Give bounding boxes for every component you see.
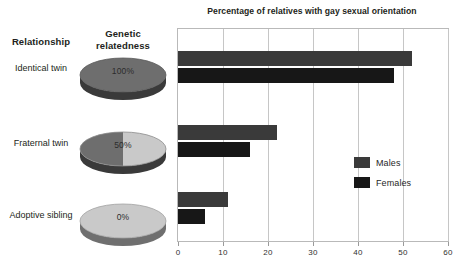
x-tick-label: 10: [218, 248, 227, 257]
pie-disc-identical-twin: 100%: [78, 50, 168, 100]
chart-title: Percentage of relatives with gay sexual …: [172, 6, 452, 16]
x-tick-label: 30: [308, 248, 317, 257]
gridline: [448, 29, 449, 241]
x-tick-mark: [313, 242, 314, 246]
row-label-fraternal-twin: Fraternal twin: [6, 138, 76, 149]
pie-value-identical-twin: 100%: [78, 66, 168, 76]
x-tick-label: 20: [263, 248, 272, 257]
x-axis: 0102030405060: [177, 244, 449, 264]
x-tick-mark: [268, 242, 269, 246]
x-tick-mark: [223, 242, 224, 246]
x-tick-label: 60: [443, 248, 452, 257]
row-label-identical-twin: Identical twin: [6, 63, 76, 74]
pie-disc-adoptive-sibling: 0%: [78, 196, 168, 246]
bar-males-fraternal-twin: [178, 125, 277, 140]
x-tick-label: 0: [176, 248, 181, 257]
pie-value-fraternal-twin: 50%: [78, 140, 168, 150]
bar-males-adoptive-sibling: [178, 192, 228, 207]
legend-swatch-males: [354, 157, 370, 168]
legend-swatch-females: [354, 177, 370, 188]
bar-females-fraternal-twin: [178, 142, 250, 157]
legend-item-males[interactable]: Males: [354, 154, 446, 171]
plot-area: [177, 28, 449, 242]
legend-label-females: Females: [376, 178, 411, 188]
bar-females-identical-twin: [178, 68, 394, 83]
bar-chart: Percentage of relatives with gay sexual …: [172, 0, 452, 276]
x-tick-mark: [178, 242, 179, 246]
x-tick-label: 50: [398, 248, 407, 257]
legend-label-males: Males: [376, 158, 401, 168]
chart-legend: MalesFemales: [354, 154, 446, 194]
relationship-panel: Relationship Genetic relatedness Identic…: [0, 0, 172, 276]
bar-females-adoptive-sibling: [178, 209, 205, 224]
x-tick-label: 40: [353, 248, 362, 257]
pie-disc-fraternal-twin: 50%: [78, 124, 168, 174]
pie-value-adoptive-sibling: 0%: [78, 212, 168, 222]
bar-males-identical-twin: [178, 51, 412, 66]
column-header-genetic-relatedness: Genetic relatedness: [78, 28, 168, 51]
legend-item-females[interactable]: Females: [354, 174, 446, 191]
column-header-relationship: Relationship: [8, 36, 74, 48]
x-tick-mark: [358, 242, 359, 246]
row-label-adoptive-sibling: Adoptive sibling: [6, 210, 76, 221]
x-tick-mark: [448, 242, 449, 246]
x-tick-mark: [403, 242, 404, 246]
